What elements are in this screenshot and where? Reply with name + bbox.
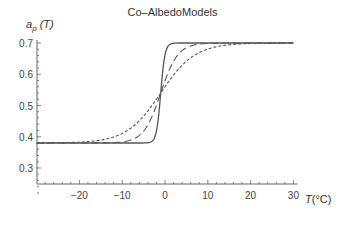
- x-tick-label: 20: [245, 190, 257, 201]
- y-tick-label: 0.4: [19, 132, 33, 143]
- x-tick-label: 0: [162, 190, 168, 201]
- series-line-solid: [37, 43, 294, 143]
- y-tick-label: 0.5: [19, 101, 33, 112]
- x-tick-label: −10: [114, 190, 131, 201]
- x-tick-label: 30: [288, 190, 300, 201]
- x-tick-label: −20: [71, 190, 88, 201]
- plot-area: −20−1001020300.30.40.50.60.7: [0, 0, 345, 225]
- y-tick-label: 0.6: [19, 69, 33, 80]
- x-tick-label: 10: [202, 190, 214, 201]
- y-tick-label: 0.3: [19, 163, 33, 174]
- y-tick-label: 0.7: [19, 38, 33, 49]
